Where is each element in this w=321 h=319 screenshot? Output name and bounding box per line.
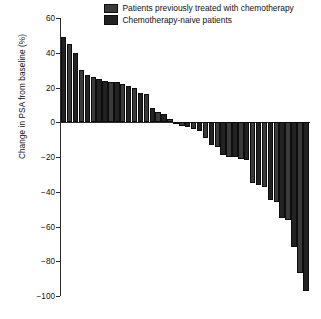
- bar: [108, 82, 113, 122]
- bar: [285, 122, 290, 219]
- bar: [102, 81, 107, 123]
- bar: [220, 122, 225, 155]
- y-tick-label: 20: [46, 83, 55, 92]
- bar: [91, 77, 96, 122]
- bar: [167, 119, 172, 122]
- bar: [114, 82, 119, 122]
- y-tick-mark: [56, 192, 60, 193]
- y-tick-mark: [56, 53, 60, 54]
- bar: [232, 122, 237, 157]
- bar: [132, 88, 137, 123]
- legend-label: Patients previously treated with chemoth…: [123, 4, 294, 12]
- legend-item: Chemotherapy-naive patients: [104, 15, 294, 26]
- bar: [274, 122, 279, 202]
- legend-swatch-naive: [104, 15, 118, 25]
- legend-label: Chemotherapy-naive patients: [123, 16, 232, 24]
- legend-item: Patients previously treated with chemoth…: [104, 3, 294, 14]
- bar: [73, 53, 78, 123]
- bar: [268, 122, 273, 200]
- y-tick-mark: [56, 88, 60, 89]
- chart-legend: Patients previously treated with chemoth…: [104, 3, 294, 26]
- bar: [279, 122, 284, 218]
- bar: [67, 44, 72, 122]
- y-tick-label: −60: [41, 222, 55, 231]
- bar: [262, 122, 267, 186]
- bar: [138, 93, 143, 123]
- bar: [203, 122, 208, 138]
- bar: [79, 70, 84, 122]
- bar: [226, 122, 231, 157]
- y-tick-mark: [56, 296, 60, 297]
- y-tick-label: 0: [50, 118, 55, 127]
- bar: [120, 84, 125, 122]
- bar: [191, 122, 196, 129]
- y-tick-mark: [56, 261, 60, 262]
- bar: [256, 122, 261, 185]
- bar: [173, 122, 178, 124]
- y-tick-label: −80: [41, 257, 55, 266]
- bar: [238, 122, 243, 158]
- y-tick-mark: [56, 227, 60, 228]
- y-tick-label: 40: [46, 48, 55, 57]
- bar: [291, 122, 296, 247]
- bar: [96, 79, 101, 122]
- bar: [126, 86, 131, 122]
- y-tick-mark: [56, 18, 60, 19]
- bar: [244, 122, 249, 160]
- bar: [185, 122, 190, 127]
- y-axis-title: Change in PSA from baseline (%): [18, 0, 27, 207]
- y-tick-label: −100: [37, 292, 55, 301]
- bar-series: [61, 18, 310, 296]
- bar: [161, 114, 166, 123]
- bar: [215, 122, 220, 146]
- bar: [209, 122, 214, 145]
- bar: [303, 122, 308, 291]
- bar: [179, 122, 184, 125]
- bar: [61, 37, 66, 122]
- bar: [155, 112, 160, 122]
- bar: [85, 75, 90, 122]
- waterfall-chart-figure: Change in PSA from baseline (%) 6040200−…: [0, 0, 321, 319]
- y-tick-label: −40: [41, 187, 55, 196]
- bar: [150, 108, 155, 122]
- y-tick-label: −20: [41, 153, 55, 162]
- y-tick-mark: [56, 157, 60, 158]
- bar: [250, 122, 255, 183]
- legend-swatch-pretreated: [104, 4, 118, 14]
- plot-area: 6040200−20−40−60−80−100: [60, 18, 310, 296]
- y-tick-label: 60: [46, 14, 55, 23]
- bar: [197, 122, 202, 131]
- bar: [144, 94, 149, 122]
- bar: [297, 122, 302, 273]
